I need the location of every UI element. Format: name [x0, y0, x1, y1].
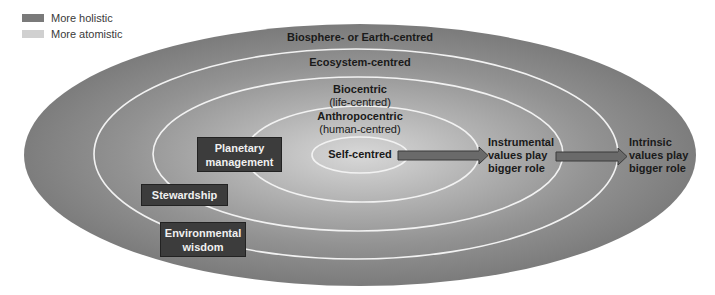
ring-subtitle: (life-centred): [280, 96, 440, 109]
environmental-wisdom-box: Environmental wisdom: [160, 222, 246, 257]
legend: More holistic More atomistic: [22, 10, 123, 42]
legend-label: More holistic: [51, 12, 113, 24]
stewardship-box: Stewardship: [141, 184, 228, 206]
holistic-swatch: [22, 14, 44, 22]
ring-label-biocentric: Biocentric (life-centred): [280, 83, 440, 109]
instrumental-values-label: Instrumental values play bigger role: [488, 136, 554, 175]
legend-item-holistic: More holistic: [22, 10, 123, 26]
ethics-diagram: More holistic More atomistic Biosphere- …: [0, 0, 715, 295]
intrinsic-values-label: Intrinsic values play bigger role: [629, 136, 688, 175]
ring-label-anthropocentric: Anthropocentric (human-centred): [280, 110, 440, 136]
ring-label-biosphere: Biosphere- or Earth-centred: [260, 31, 460, 44]
ring-title: Anthropocentric: [317, 110, 403, 122]
legend-label: More atomistic: [51, 28, 123, 40]
ring-title: Ecosystem-centred: [309, 56, 411, 68]
ring-label-self: Self-centred: [310, 148, 410, 161]
atomistic-swatch: [22, 30, 44, 38]
ring-subtitle: (human-centred): [280, 123, 440, 136]
ring-title: Self-centred: [328, 148, 392, 160]
planetary-management-box: Planetary management: [197, 137, 282, 172]
legend-item-atomistic: More atomistic: [22, 26, 123, 42]
ring-label-ecosystem: Ecosystem-centred: [260, 56, 460, 69]
ring-title: Biocentric: [333, 83, 387, 95]
ring-title: Biosphere- or Earth-centred: [287, 31, 433, 43]
